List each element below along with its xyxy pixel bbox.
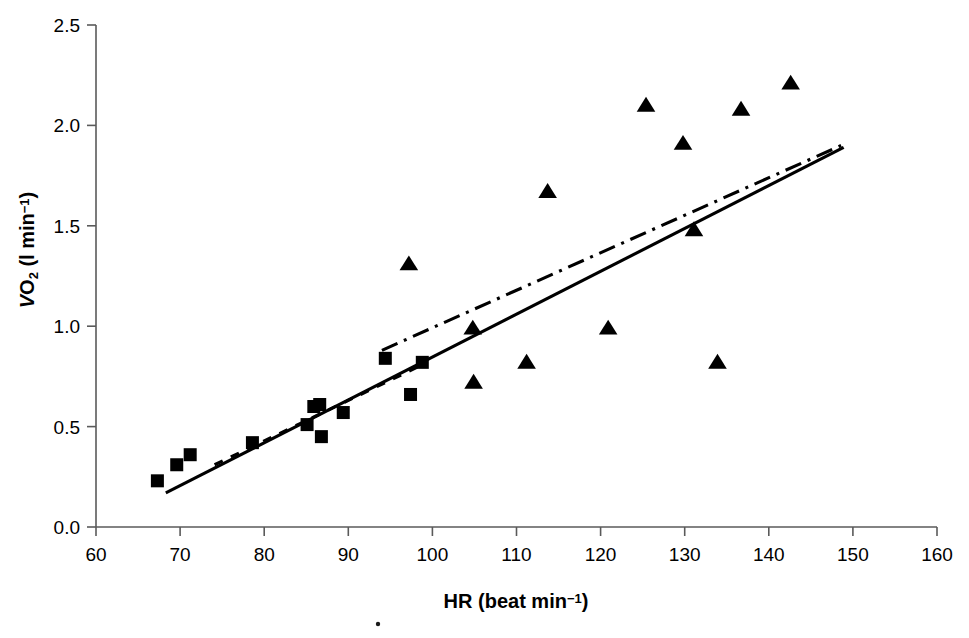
x-axis-title-tail: ) [582, 590, 589, 612]
data-point-square [379, 352, 392, 365]
series-squares [151, 352, 429, 487]
x-tick-label: 80 [254, 544, 275, 565]
y-tick-label: 0.0 [54, 517, 80, 538]
svg-text:HR (beat min−1): HR (beat min−1) [444, 590, 589, 612]
svg-text:VO2 (l min−1): VO2 (l min−1) [16, 192, 41, 309]
data-point-triangle [732, 101, 751, 116]
data-point-square [184, 448, 197, 461]
y-axis-title-o: O [16, 279, 38, 295]
x-axis-title: HR (beat min−1) [444, 590, 589, 612]
y-axis-title-two: 2 [26, 272, 41, 279]
data-point-triangle [464, 374, 483, 389]
x-tick-label: 100 [417, 544, 449, 565]
x-tick-label: 120 [585, 544, 617, 565]
scatter-plot: 0.00.51.01.52.02.5 607080901001101201301… [0, 0, 969, 638]
data-point-triangle [538, 183, 557, 198]
data-point-square [170, 458, 183, 471]
x-tick-label: 60 [85, 544, 106, 565]
data-point-square [313, 398, 326, 411]
solid-regression-line [166, 147, 844, 492]
y-tick-label: 2.0 [54, 115, 80, 136]
x-tick-label: 150 [837, 544, 869, 565]
data-point-triangle [708, 354, 727, 369]
y-tick-label: 2.5 [54, 15, 80, 36]
data-point-triangle [674, 135, 693, 150]
y-axis-title: VO2 (l min−1) [16, 192, 41, 309]
data-point-square [416, 356, 429, 369]
scan-artifact-speck [376, 622, 380, 626]
x-tick-label: 160 [921, 544, 953, 565]
data-point-square [404, 388, 417, 401]
regression-lines [166, 145, 844, 492]
data-point-triangle [400, 255, 419, 270]
data-point-square [337, 406, 350, 419]
x-tick-label: 130 [669, 544, 701, 565]
y-axis-title-tail: ) [16, 192, 38, 199]
data-point-square [301, 418, 314, 431]
y-tick-label: 1.5 [54, 216, 80, 237]
data-point-triangle [637, 97, 656, 112]
y-axis-ticks: 0.00.51.01.52.02.5 [54, 15, 96, 538]
y-axis-title-mid: (l min [16, 213, 38, 272]
x-tick-label: 90 [338, 544, 359, 565]
x-tick-label: 140 [753, 544, 785, 565]
y-axis-title-sup: −1 [17, 198, 32, 213]
y-tick-label: 1.0 [54, 316, 80, 337]
data-point-triangle [599, 320, 618, 335]
data-point-triangle [517, 354, 536, 369]
x-tick-label: 110 [501, 544, 531, 565]
data-point-square [151, 474, 164, 487]
x-tick-label: 70 [170, 544, 191, 565]
x-axis-title-main: HR (beat min [444, 590, 567, 612]
data-point-triangle [781, 75, 800, 90]
x-axis-title-sup: −1 [567, 591, 582, 606]
x-axis-ticks: 60708090100110120130140150160 [85, 527, 952, 565]
axes-group [96, 25, 937, 527]
data-point-triangle [463, 320, 482, 335]
data-point-square [315, 430, 328, 443]
y-tick-label: 0.5 [54, 417, 80, 438]
data-point-square [246, 436, 259, 449]
dashdot-regression-line [382, 145, 841, 350]
chart-figure: 0.00.51.01.52.02.5 607080901001101201301… [0, 0, 969, 638]
